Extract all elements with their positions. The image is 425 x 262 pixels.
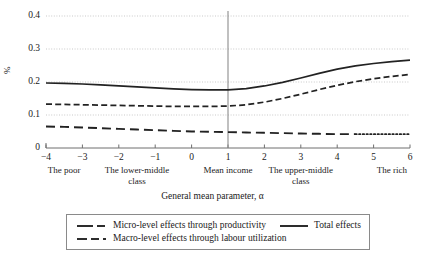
- chart-legend: Micro-level effects through productivity…: [66, 214, 370, 250]
- legend-label-micro: Micro-level effects through productivity: [113, 220, 266, 230]
- chart-container: % 00.10.20.30.4 −4−3−2−10123456 The poor…: [0, 0, 425, 262]
- legend-label-macro: Macro-level effects through labour utili…: [113, 233, 286, 243]
- legend-label-total: Total effects: [314, 220, 361, 230]
